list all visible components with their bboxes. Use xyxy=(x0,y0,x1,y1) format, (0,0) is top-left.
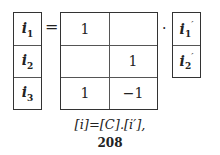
equation-caption: [i]=[C].[i′], xyxy=(0,117,220,132)
page-number: 208 xyxy=(0,136,220,150)
vector-entry-i2-prime: i2′ xyxy=(173,45,200,77)
multiply-dot: · xyxy=(162,20,166,36)
matrix-cell-r2c1 xyxy=(61,45,109,77)
matrix-cell-r1c1: 1 xyxy=(61,13,109,45)
matrix-cell-r3c2: −1 xyxy=(109,77,157,109)
vector-entry-i3: i3 xyxy=(14,77,41,109)
vector-entry-i2: i2 xyxy=(14,45,41,77)
right-vector-i-prime: i1′ i2′ xyxy=(172,12,201,78)
matrix-c: 1 1 1 −1 xyxy=(60,12,158,110)
matrix-cell-r2c2: 1 xyxy=(109,45,157,77)
vector-entry-i1: i1 xyxy=(14,13,41,45)
left-vector-i: i1 i2 i3 xyxy=(13,12,42,110)
matrix-cell-r1c2 xyxy=(109,13,157,45)
matrix-cell-r3c1: 1 xyxy=(61,77,109,109)
vector-entry-i1-prime: i1′ xyxy=(173,13,200,45)
equals-sign: = xyxy=(45,17,58,36)
